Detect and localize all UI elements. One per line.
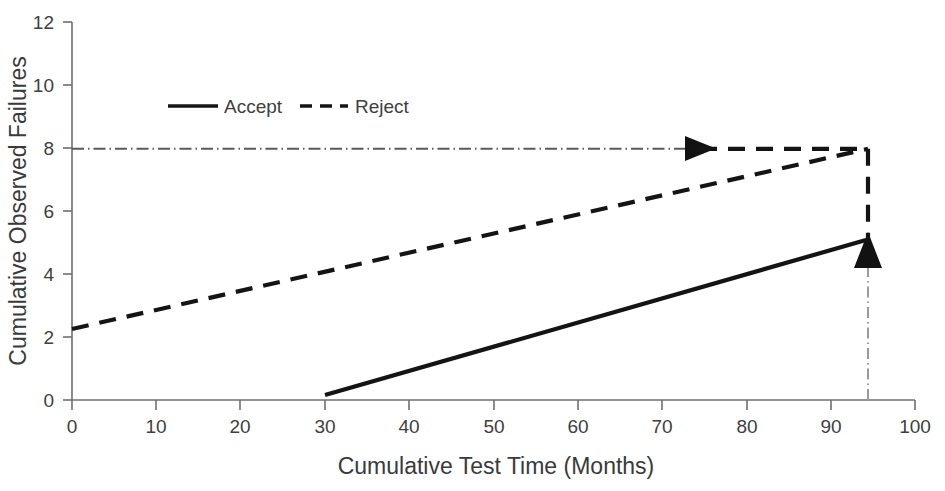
y-tick-label: 4 — [43, 264, 54, 285]
x-tick-label: 0 — [67, 416, 78, 437]
x-tick-label: 100 — [899, 416, 931, 437]
chart-canvas: 0 2 4 6 8 10 12 0 10 20 30 40 50 60 70 8… — [0, 0, 945, 491]
legend-label-accept: Accept — [224, 96, 283, 117]
x-axis-title: Cumulative Test Time (Months) — [338, 453, 655, 479]
series-line-accept — [325, 240, 866, 395]
series-line-reject — [72, 149, 868, 329]
x-tick-label: 50 — [483, 416, 504, 437]
x-tick-label: 30 — [314, 416, 335, 437]
x-tick-label: 90 — [820, 416, 841, 437]
x-tick-label: 60 — [567, 416, 588, 437]
x-tick-label: 40 — [398, 416, 419, 437]
y-tick-label: 6 — [43, 201, 54, 222]
x-tick-label: 10 — [145, 416, 166, 437]
x-tick-label: 70 — [651, 416, 672, 437]
x-tick-label: 80 — [736, 416, 757, 437]
y-tick-label: 2 — [43, 327, 54, 348]
accept-endpoint-up-arrow-icon — [854, 232, 882, 268]
y-tick-label: 8 — [43, 138, 54, 159]
x-axis-tick-labels: 0 10 20 30 40 50 60 70 80 90 100 — [67, 416, 931, 437]
chart-container: 0 2 4 6 8 10 12 0 10 20 30 40 50 60 70 8… — [0, 0, 945, 491]
series-reject-truncation-path — [700, 149, 868, 245]
chart-legend: Accept Reject — [168, 96, 410, 117]
y-tick-label: 12 — [33, 12, 54, 33]
legend-label-reject: Reject — [355, 96, 410, 117]
y-tick-label: 0 — [43, 390, 54, 411]
y-tick-label: 10 — [33, 75, 54, 96]
y-axis-tick-labels: 0 2 4 6 8 10 12 — [33, 12, 55, 411]
x-tick-label: 20 — [229, 416, 250, 437]
y-axis-ticks — [63, 22, 72, 400]
y-axis-title: Cumulative Observed Failures — [5, 56, 31, 365]
x-axis-ticks — [72, 400, 915, 410]
